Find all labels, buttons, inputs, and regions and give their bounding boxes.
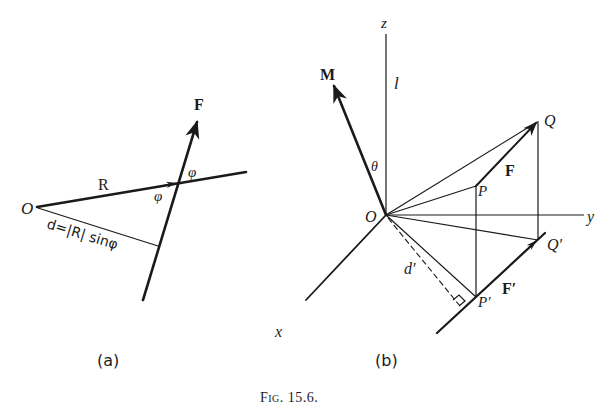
angle-phi-upper-label: φ — [188, 164, 196, 180]
vector-f-prime-label: F′ — [502, 280, 516, 297]
vector-r-label: R — [98, 176, 109, 193]
figure-caption: Fig. 15.6. — [260, 390, 318, 405]
point-p-prime-label: P′ — [477, 294, 491, 310]
axis-y-label: y — [585, 208, 595, 226]
panel-b-label: (b) — [375, 351, 398, 370]
point-q-prime-label: Q′ — [547, 236, 563, 253]
angle-theta-label: θ — [371, 159, 378, 174]
axis-z-label: z — [380, 15, 387, 31]
line-l-label: l — [394, 74, 399, 93]
axis-x — [306, 215, 386, 300]
panel-a-label: (a) — [97, 351, 119, 370]
panel-b: z y x l M θ O Q P F Q′ P′ F′ d′ (b) — [274, 15, 595, 370]
vector-f-prime-arrowhead — [520, 241, 536, 256]
distance-d-prime-dashed — [388, 218, 460, 306]
point-p-label: P — [477, 183, 487, 199]
vector-f-line — [143, 122, 197, 300]
vector-f-label: F — [194, 96, 204, 113]
distance-d-prime-label: d′ — [404, 260, 416, 277]
angle-phi-lower-label: φ — [154, 188, 162, 204]
vector-m — [334, 86, 386, 215]
line-o-p — [386, 186, 476, 215]
point-o-label: O — [21, 199, 33, 218]
origin-o-label: O — [365, 208, 377, 225]
vector-r-line — [37, 172, 246, 207]
figure-15-6: O R F φ φ d=|R| sinφ (a) — [0, 0, 611, 410]
axis-x-label: x — [274, 323, 282, 340]
panel-a: O R F φ φ d=|R| sinφ (a) — [21, 96, 246, 370]
vector-f-label: F — [505, 162, 515, 179]
distance-formula-label: d=|R| sinφ — [45, 216, 120, 254]
point-q-label: Q — [544, 112, 556, 129]
vector-m-label: M — [320, 66, 335, 83]
